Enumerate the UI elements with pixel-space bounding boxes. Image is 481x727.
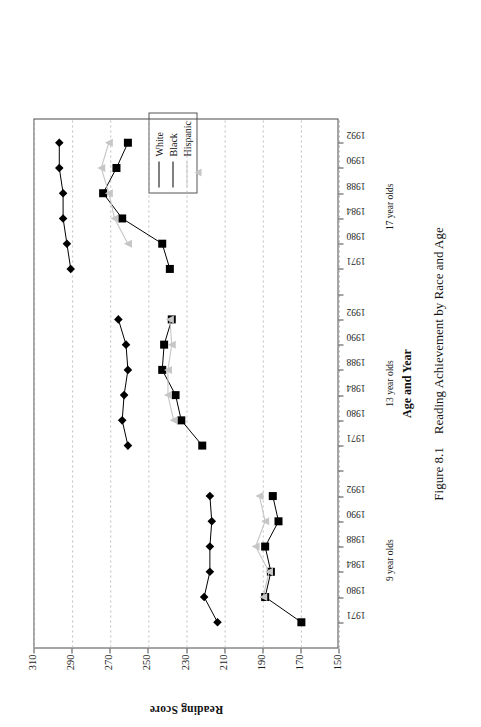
x-axis-tick-label: 1971 bbox=[346, 255, 365, 265]
x-axis-tick-mark bbox=[338, 546, 343, 547]
y-axis-tick-mark bbox=[71, 648, 72, 653]
x-axis-group-separator-tick bbox=[338, 294, 343, 295]
y-axis-title: Reading Score bbox=[149, 703, 223, 715]
x-axis-tick-label: 1988 bbox=[346, 533, 365, 543]
y-axis-tick-label: 230 bbox=[180, 654, 191, 727]
x-axis-tick-mark bbox=[338, 369, 343, 370]
figure-caption-text: Reading Achievement by Race and Age bbox=[430, 227, 445, 434]
x-axis-tick-mark bbox=[338, 268, 343, 269]
x-axis-tick-label: 1980 bbox=[346, 584, 365, 594]
x-axis-tick-label: 1990 bbox=[346, 331, 365, 341]
x-axis-tick-mark bbox=[338, 597, 343, 598]
x-axis-tick-label: 1992 bbox=[346, 483, 365, 493]
rotated-figure-wrapper: White Black Hispanic bbox=[0, 0, 481, 727]
figure-page: White Black Hispanic bbox=[0, 0, 481, 727]
y-axis-tick-label: 170 bbox=[295, 654, 306, 727]
y-axis-tick-mark bbox=[300, 648, 301, 653]
x-axis-group-separator-tick bbox=[338, 470, 343, 471]
x-axis-tick-label: 1984 bbox=[346, 382, 365, 392]
x-axis-tick-mark bbox=[338, 167, 343, 168]
x-axis-tick-mark bbox=[338, 243, 343, 244]
x-axis-tick-label: 1971 bbox=[346, 609, 365, 619]
x-axis-tick-label: 1980 bbox=[346, 407, 365, 417]
y-axis-tick-mark bbox=[33, 648, 34, 653]
y-axis-tick-mark bbox=[147, 648, 148, 653]
y-axis-tick-mark bbox=[262, 648, 263, 653]
y-axis-tick-label: 310 bbox=[28, 654, 39, 727]
x-axis-tick-mark bbox=[338, 496, 343, 497]
x-axis-tick-mark bbox=[338, 218, 343, 219]
x-axis-group-label: 13 year olds bbox=[384, 360, 394, 406]
y-axis-tick-mark bbox=[109, 648, 110, 653]
x-axis-group-label: 9 year olds bbox=[384, 539, 394, 581]
figure-number: Figure 8.1 bbox=[430, 447, 445, 500]
x-axis-tick-mark bbox=[338, 445, 343, 446]
figure-caption: Figure 8.1Reading Achievement by Race an… bbox=[430, 0, 446, 727]
x-axis-tick-label: 1984 bbox=[346, 205, 365, 215]
y-axis-tick-mark bbox=[186, 648, 187, 653]
x-axis-tick-mark bbox=[338, 344, 343, 345]
x-axis-tick-label: 1971 bbox=[346, 432, 365, 442]
plot-area bbox=[33, 118, 338, 648]
x-axis-tick-label: 1980 bbox=[346, 230, 365, 240]
y-axis-tick-label: 210 bbox=[218, 654, 229, 727]
x-axis-title: Age and Year bbox=[399, 349, 414, 418]
figure-canvas: White Black Hispanic bbox=[0, 0, 481, 727]
x-axis-tick-mark bbox=[338, 395, 343, 396]
x-axis-tick-mark bbox=[338, 193, 343, 194]
series-layer bbox=[34, 117, 339, 647]
x-axis-tick-label: 1990 bbox=[346, 508, 365, 518]
x-axis-tick-label: 1992 bbox=[346, 306, 365, 316]
y-axis-tick-label: 190 bbox=[257, 654, 268, 727]
x-axis-tick-mark bbox=[338, 319, 343, 320]
x-axis-tick-label: 1988 bbox=[346, 180, 365, 190]
x-axis-tick-label: 1992 bbox=[346, 129, 365, 139]
y-axis-tick-label: 290 bbox=[66, 654, 77, 727]
x-axis-tick-label: 1988 bbox=[346, 356, 365, 366]
x-axis-tick-label: 1984 bbox=[346, 558, 365, 568]
x-axis-tick-mark bbox=[338, 420, 343, 421]
x-axis-tick-mark bbox=[338, 571, 343, 572]
y-axis-tick-label: 270 bbox=[104, 654, 115, 727]
x-axis-tick-label: 1990 bbox=[346, 154, 365, 164]
y-axis-tick-label: 250 bbox=[142, 654, 153, 727]
x-axis-tick-mark bbox=[338, 142, 343, 143]
x-axis-group-label: 17 year olds bbox=[384, 183, 394, 229]
x-axis-tick-mark bbox=[338, 521, 343, 522]
y-axis-tick-mark bbox=[338, 648, 339, 653]
y-axis-tick-label: 150 bbox=[333, 654, 344, 727]
x-axis-tick-mark bbox=[338, 622, 343, 623]
y-axis-tick-mark bbox=[224, 648, 225, 653]
